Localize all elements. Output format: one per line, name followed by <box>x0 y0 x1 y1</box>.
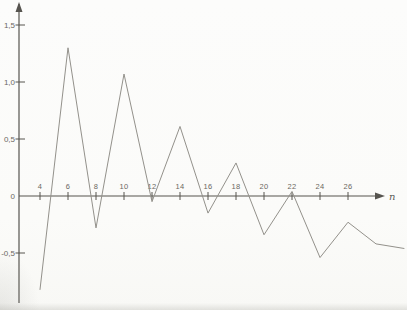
y-tick-label: 0 <box>11 192 16 201</box>
x-tick-label: 14 <box>175 182 184 191</box>
x-axis-variable-label: n <box>389 191 395 202</box>
y-tick-label: 0,5 <box>4 135 16 144</box>
sequence-plot: 1,51,00,50-0,5468101214161820222426n <box>0 0 407 310</box>
x-tick-label: 22 <box>287 182 296 191</box>
scanned-chart-figure: 1,51,00,50-0,5468101214161820222426n <box>0 0 407 310</box>
x-tick-label: 6 <box>66 182 71 191</box>
y-tick-label: 1,5 <box>4 21 16 30</box>
x-tick-label: 20 <box>259 182 268 191</box>
x-tick-label: 24 <box>315 182 324 191</box>
y-tick-label: -0,5 <box>1 249 15 258</box>
sequence-curve <box>40 48 404 290</box>
x-tick-label: 4 <box>38 182 43 191</box>
y-axis-arrowhead-icon <box>16 2 23 12</box>
y-tick-label: 1,0 <box>4 78 16 87</box>
x-axis-arrowhead-icon <box>375 193 385 200</box>
x-tick-label: 18 <box>231 182 240 191</box>
x-tick-label: 8 <box>94 182 99 191</box>
x-tick-label: 26 <box>343 182 352 191</box>
x-tick-label: 16 <box>203 182 212 191</box>
x-tick-label: 10 <box>119 182 128 191</box>
